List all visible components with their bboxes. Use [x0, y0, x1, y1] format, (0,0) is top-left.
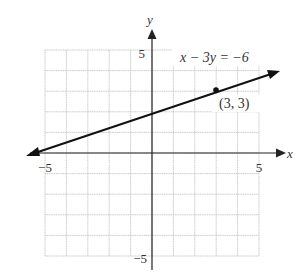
- x-axis-label: x: [286, 146, 293, 161]
- x-min-tick-label: −5: [38, 160, 52, 175]
- data-point: [213, 87, 219, 93]
- y-axis-label: y: [145, 12, 153, 27]
- x-max-tick-label: 5: [256, 160, 263, 175]
- point-label: (3, 3): [219, 96, 250, 112]
- coordinate-plane: y x −5 5 5 −5 x − 3y = −6 (3, 3): [0, 0, 303, 272]
- y-max-tick-label: 5: [139, 46, 146, 61]
- x-axis: [30, 149, 286, 158]
- line-arrow-right-icon: [267, 70, 280, 79]
- y-axis-arrow-icon: [148, 29, 157, 39]
- x-axis-arrow-icon: [276, 149, 286, 158]
- y-min-tick-label: −5: [133, 251, 147, 266]
- plotted-line: [26, 70, 280, 156]
- equation-label: x − 3y = −6: [179, 50, 249, 65]
- line-arrow-left-icon: [26, 147, 40, 156]
- y-axis: [148, 29, 157, 270]
